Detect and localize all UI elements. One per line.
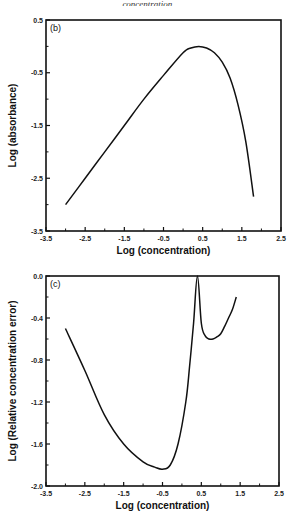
x-tick-label: 0.5 <box>198 235 208 242</box>
y-tick-label: -0.4 <box>31 315 43 322</box>
y-axis-title: Log (Relative concentration error) <box>7 300 18 461</box>
x-axis-title: Log (concentration) <box>116 500 210 511</box>
y-tick-label: 0.0 <box>33 273 43 280</box>
panel-label: (c) <box>50 279 61 289</box>
x-tick-label: -1.5 <box>118 235 130 242</box>
y-tick-label: -1.2 <box>31 399 43 406</box>
data-series-line <box>66 46 254 204</box>
x-tick-label: 2.5 <box>276 235 286 242</box>
y-tick-label: -2.5 <box>31 175 43 182</box>
x-axis-title: Log (concentration) <box>117 245 211 256</box>
plot-frame <box>46 20 281 231</box>
x-tick-label: -2.5 <box>79 490 91 497</box>
plot-frame <box>46 276 279 486</box>
x-tick-label: -3.5 <box>40 490 52 497</box>
x-tick-label: -1.5 <box>118 490 130 497</box>
x-tick-label: 1.5 <box>237 235 247 242</box>
x-tick-label: 0.5 <box>196 490 206 497</box>
y-axis-title: Log (absorbance) <box>7 84 18 168</box>
y-tick-label: 0.5 <box>33 17 43 24</box>
x-tick-label: -0.5 <box>157 235 169 242</box>
y-tick-label: -1.5 <box>31 122 43 129</box>
y-tick-label: -0.5 <box>31 69 43 76</box>
chart-panel-c: -3.5-2.5-1.5-0.50.51.52.50.0-0.4-0.8-1.2… <box>0 270 297 523</box>
y-tick-label: -2.0 <box>31 483 43 490</box>
panel-label: (b) <box>50 23 61 33</box>
x-tick-label: 2.5 <box>274 490 284 497</box>
x-tick-label: -3.5 <box>40 235 52 242</box>
y-tick-label: -3.5 <box>31 228 43 235</box>
chart-panel-b: -3.5-2.5-1.5-0.50.51.52.50.5-0.5-1.5-2.5… <box>0 0 297 270</box>
data-series-line <box>65 276 236 469</box>
x-tick-label: -0.5 <box>156 490 168 497</box>
y-tick-label: -0.8 <box>31 357 43 364</box>
x-tick-label: 1.5 <box>235 490 245 497</box>
x-tick-label: -2.5 <box>79 235 91 242</box>
y-tick-label: -1.6 <box>31 441 43 448</box>
